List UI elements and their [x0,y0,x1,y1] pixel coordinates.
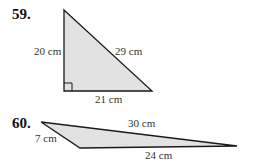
label-59-bottom: 21 cm [95,93,122,105]
label-60-bottom: 24 cm [145,149,172,161]
label-59-left: 20 cm [34,45,61,57]
label-59-hypotenuse: 29 cm [115,45,142,57]
problem-60-number: 60. [12,115,31,132]
problem-59-number: 59. [12,6,31,23]
label-60-left: 7 cm [35,132,57,144]
label-60-top: 30 cm [128,117,155,129]
